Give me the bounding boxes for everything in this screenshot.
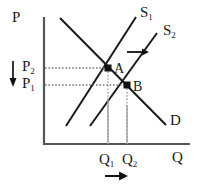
quantity-label-q1: Q1 xyxy=(99,152,114,167)
price-label-p1: P1 xyxy=(22,76,35,91)
curve-label-s1: S1 xyxy=(140,5,153,20)
quantity-increase-arrow-icon xyxy=(105,172,128,181)
price-label-p2-subscript: 2 xyxy=(30,66,35,76)
quantity-axis-label: Q xyxy=(172,150,183,165)
price-axis-label-text: P xyxy=(12,9,20,25)
point-label-a: A xyxy=(114,62,124,76)
price-label-p2: P2 xyxy=(22,59,35,74)
point-label-b: B xyxy=(133,80,142,94)
point-label-b-text: B xyxy=(133,79,142,94)
quantity-label-q2: Q2 xyxy=(122,152,137,167)
price-axis-label: P xyxy=(12,10,20,25)
point-a-marker xyxy=(105,65,112,72)
curve-label-d: D xyxy=(170,113,181,128)
quantity-axis-label-text: Q xyxy=(172,149,183,165)
curve-label-d-base: D xyxy=(170,112,181,128)
quantity-label-q1-subscript: 1 xyxy=(110,159,115,169)
quantity-label-q2-subscript: 2 xyxy=(133,159,138,169)
point-b-marker xyxy=(124,82,131,89)
supply-demand-diagram: P Q P2 P1 Q1 Q2 S1 S2 D A B xyxy=(0,0,199,190)
point-label-a-text: A xyxy=(114,61,124,76)
price-decrease-arrow-icon xyxy=(10,61,17,87)
curve-label-s2: S2 xyxy=(163,23,176,38)
quantity-label-q1-base: Q xyxy=(99,151,110,167)
price-label-p1-subscript: 1 xyxy=(30,83,35,93)
curve-label-s1-subscript: 1 xyxy=(148,12,153,22)
curve-label-s2-subscript: 2 xyxy=(171,30,176,40)
quantity-label-q2-base: Q xyxy=(122,151,133,167)
supply-curve-s2 xyxy=(90,33,157,126)
